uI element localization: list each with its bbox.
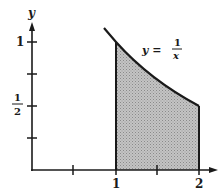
y-tick-label-half-den: 2 (14, 106, 21, 117)
y-tick-label-1: 1 (16, 35, 24, 49)
y-axis-label: y (27, 6, 36, 20)
x-tick-label-2: 2 (195, 177, 203, 191)
curve-label-den: x (172, 50, 180, 61)
shaded-region (116, 42, 199, 170)
y-tick-label-half-num: 1 (14, 92, 21, 103)
curve-label-num: 1 (174, 37, 181, 48)
y-axis-arrow-icon (29, 22, 35, 31)
curve-label-lhs: y = (141, 44, 161, 57)
area-under-curve-diagram: y 1 1 2 1 2 y = 1 x (0, 0, 222, 192)
x-axis-arrow-icon (209, 167, 218, 173)
x-tick-label-1: 1 (112, 177, 120, 191)
